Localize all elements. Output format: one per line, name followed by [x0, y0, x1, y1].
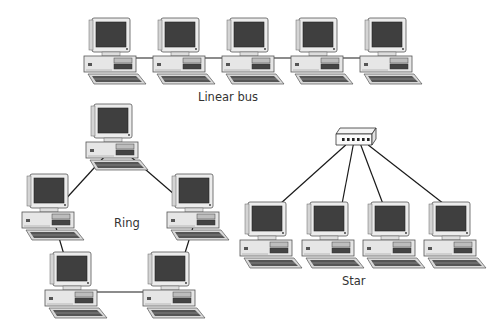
computer-icon: [45, 252, 107, 318]
computer-icon: [167, 174, 229, 240]
computer-icon: [363, 202, 425, 268]
computer-icon: [84, 18, 146, 84]
computer-icon: [222, 18, 284, 84]
linear-bus-label: Linear bus: [198, 90, 258, 104]
computer-icon: [143, 252, 205, 318]
computer-nodes: [22, 18, 486, 318]
network-topology-diagram: [0, 0, 504, 333]
star-hub-icon: [336, 128, 376, 145]
computer-icon: [240, 202, 302, 268]
computer-icon: [86, 104, 148, 170]
computer-icon: [153, 18, 215, 84]
computer-icon: [22, 174, 84, 240]
ring-label: Ring: [114, 216, 140, 230]
star-link: [342, 145, 353, 204]
computer-icon: [302, 202, 364, 268]
computer-icon: [424, 202, 486, 268]
computer-icon: [291, 18, 353, 84]
computer-icon: [360, 18, 422, 84]
star-label: Star: [342, 274, 366, 288]
star-link: [280, 145, 346, 204]
